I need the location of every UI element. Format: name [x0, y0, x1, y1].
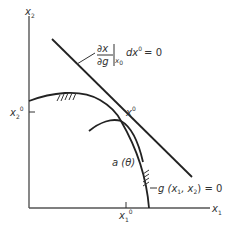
curve-a-theta [89, 120, 143, 162]
axes [29, 16, 210, 208]
curve-a-theta-label: a (θ) [112, 157, 135, 168]
constraint-label: g (x1, x2) = 0 [158, 183, 222, 195]
partial-numerator: ∂x [97, 43, 108, 54]
tangent-annotation: ∂x ∂g x0 dx0= 0 [97, 43, 162, 67]
hatch-lower [143, 170, 149, 186]
dx0-term: dx0= 0 [126, 45, 162, 58]
partial-denominator: ∂g [97, 56, 109, 67]
x2-0-label: x20 [9, 105, 24, 120]
eval-point: x0 [114, 57, 123, 66]
point-x0-label: x0 [125, 105, 136, 118]
x-axis-label: x1 [211, 203, 222, 216]
optimization-diagram: x2 x1 x20 x10 x0 a (θ) g (x1, x2) = 0 ∂x… [0, 0, 229, 231]
x1-0-label: x10 [118, 208, 133, 223]
annotation-leader [77, 53, 95, 64]
